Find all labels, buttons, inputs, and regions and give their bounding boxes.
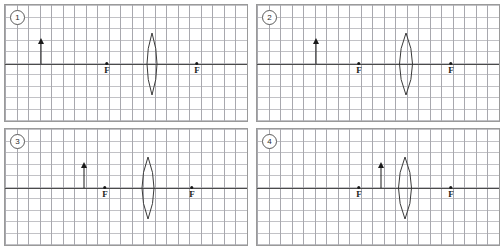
optical-axis <box>257 64 499 65</box>
focal-label: F <box>194 66 200 75</box>
panel-2[interactable]: F F 2 <box>256 4 500 122</box>
panel-number-badge: 3 <box>10 134 25 149</box>
object-arrow <box>312 38 320 64</box>
converging-lens <box>134 156 162 220</box>
focal-label: F <box>189 190 195 199</box>
panel-4[interactable]: F F 4 <box>256 128 500 246</box>
arrow-shaft <box>381 166 382 188</box>
panel-number-label: 1 <box>15 14 19 22</box>
panel-number-badge: 4 <box>262 134 277 149</box>
focal-point-right: F <box>189 186 195 199</box>
graph-grid <box>5 129 247 245</box>
focal-label: F <box>448 66 454 75</box>
figure-sheet: F F 1 F F <box>0 0 504 250</box>
optical-axis <box>5 188 247 189</box>
focal-label: F <box>356 66 362 75</box>
graph-grid <box>257 5 499 121</box>
focal-label: F <box>356 190 362 199</box>
focal-point-left: F <box>356 62 362 75</box>
focal-label: F <box>102 190 108 199</box>
converging-lens <box>391 32 421 96</box>
arrow-shaft <box>316 42 317 64</box>
converging-lens <box>140 32 164 96</box>
focal-point-left: F <box>356 186 362 199</box>
optical-axis <box>5 64 247 65</box>
focal-point-right: F <box>448 62 454 75</box>
object-arrow <box>377 162 385 188</box>
panel-number-label: 3 <box>15 138 19 146</box>
focal-point-left: F <box>104 62 110 75</box>
panel-number-label: 4 <box>267 138 271 146</box>
panel-1[interactable]: F F 1 <box>4 4 248 122</box>
focal-point-left: F <box>102 186 108 199</box>
focal-label: F <box>448 190 454 199</box>
panel-number-badge: 1 <box>10 10 25 25</box>
object-arrow <box>37 38 45 64</box>
converging-lens <box>390 156 420 220</box>
panel-number-badge: 2 <box>262 10 277 25</box>
arrow-shaft <box>84 166 85 188</box>
focal-point-right: F <box>448 186 454 199</box>
panel-number-label: 2 <box>267 14 271 22</box>
focal-point-right: F <box>194 62 200 75</box>
object-arrow <box>80 162 88 188</box>
focal-label: F <box>104 66 110 75</box>
optical-axis <box>257 188 499 189</box>
arrow-shaft <box>41 42 42 64</box>
panel-3[interactable]: F F 3 <box>4 128 248 246</box>
